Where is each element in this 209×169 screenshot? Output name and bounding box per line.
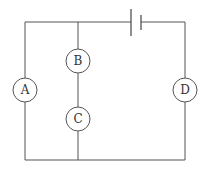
- component-a-label: A: [20, 83, 30, 97]
- component-b: B: [66, 49, 90, 73]
- component-c: C: [66, 107, 90, 131]
- battery-cell-icon: [131, 9, 141, 36]
- component-b-label: B: [74, 54, 83, 68]
- component-c-label: C: [73, 112, 82, 126]
- component-d-label: D: [180, 83, 190, 97]
- component-d: D: [173, 78, 197, 102]
- circuit-diagram: A B C D: [0, 0, 209, 169]
- component-a: A: [13, 78, 37, 102]
